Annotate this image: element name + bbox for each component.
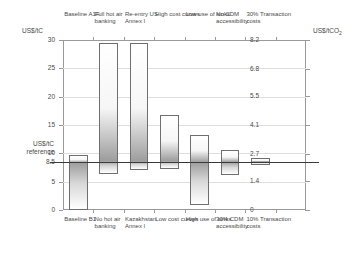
y-tick-label-left: 5 [15, 178, 55, 185]
y-tick-label-right: 6.8 [250, 65, 259, 72]
y-tick-label-right: 1.4 [250, 177, 259, 184]
plot-area [63, 40, 306, 210]
chart-canvas: US$/tC US$/tCO2 US$/tC reference 3025201… [0, 0, 358, 260]
y-tick-label-right: 2.7 [250, 150, 259, 157]
x-label-top: 30% Transaction costs [246, 11, 292, 26]
x-tick-bottom [124, 209, 125, 213]
x-tick-bottom [93, 209, 94, 213]
x-tick-bottom [185, 209, 186, 213]
y-tick-right [305, 181, 310, 182]
x-tick-bottom [154, 209, 155, 213]
y-tick-label-left: 10 [15, 149, 55, 156]
y-tick-label-left: 30 [15, 36, 55, 43]
y-tick-right [305, 40, 310, 41]
x-tick-bottom [215, 209, 216, 213]
bar [99, 43, 118, 174]
y-tick-left [59, 40, 63, 41]
reference-label-line1: US$/tC [10, 140, 54, 148]
y-axis-left-title: US$/tC [22, 27, 43, 34]
x-tick-top [245, 37, 246, 41]
x-tick-top [93, 37, 94, 41]
y-tick-left [59, 68, 63, 69]
y-tick-label-left: 15 [15, 121, 55, 128]
y-tick-right [305, 125, 310, 126]
y-axis-right-title: US$/tCO2 [313, 27, 342, 36]
y-tick-label-left: 25 [15, 64, 55, 71]
reference-line [50, 162, 319, 163]
y-axis-right-title-text: US$/tCO [313, 27, 339, 34]
bar [69, 155, 88, 210]
y-tick-right [305, 69, 310, 70]
gridline [63, 182, 306, 183]
bar [190, 135, 209, 205]
y-tick-left [59, 125, 63, 126]
x-tick-top [276, 37, 277, 41]
y-tick-right [305, 154, 310, 155]
y-tick-label-left: 8.5 [15, 158, 55, 165]
y-tick-label-left: 20 [15, 93, 55, 100]
bar [130, 43, 149, 170]
x-label-bottom: 10% Transaction costs [246, 216, 292, 231]
y-tick-left [59, 210, 63, 211]
x-tick-top [124, 37, 125, 41]
x-tick-top [215, 37, 216, 41]
y-tick-right [305, 96, 310, 97]
y-tick-left [59, 182, 63, 183]
y-tick-left [59, 153, 63, 154]
x-tick-bottom [276, 209, 277, 213]
x-tick-bottom [245, 209, 246, 213]
y-tick-label-right: 5.5 [250, 92, 259, 99]
y-tick-right [305, 210, 310, 211]
y-tick-label-right: 0 [250, 206, 254, 213]
x-tick-top [154, 37, 155, 41]
y-tick-label-left: 0 [15, 206, 55, 213]
x-tick-top [185, 37, 186, 41]
y-tick-label-right: 8.2 [250, 36, 259, 43]
y-axis-right-title-subscript: 2 [339, 30, 342, 36]
y-tick-left [59, 97, 63, 98]
y-tick-label-right: 4.1 [250, 121, 259, 128]
